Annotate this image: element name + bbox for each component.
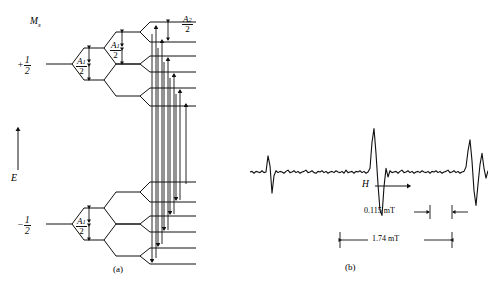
- level-label-minus-half: −12: [17, 215, 31, 236]
- measurement-label-174: 1.74 mT: [372, 234, 399, 243]
- spectrum-trace: [250, 129, 488, 216]
- esr-figure: Ms +12 −12 A12 A12 A22 A12 E H 0.115 mT …: [0, 0, 488, 289]
- level-label-plus-half: +12: [17, 55, 31, 76]
- final-level-lines: [178, 22, 196, 264]
- measurement-label-0115: 0.115 mT: [364, 206, 395, 215]
- field-axis-label: H: [362, 179, 369, 189]
- splitting-label-a2: A22: [182, 14, 193, 34]
- splitting-label-a1-mid: A12: [110, 40, 121, 60]
- figure-canvas: [0, 0, 488, 289]
- transition-arrows: [152, 26, 186, 262]
- quantum-number-label: Ms: [30, 16, 41, 29]
- energy-axis-label: E: [11, 172, 17, 183]
- splitting-label-a1-upper: A12: [76, 56, 87, 76]
- splitting-label-a1-lower: A12: [76, 216, 87, 236]
- panel-a-caption: (a): [113, 264, 123, 274]
- measure-0115-bracket: [414, 205, 468, 219]
- panel-b-caption: (b): [345, 262, 356, 272]
